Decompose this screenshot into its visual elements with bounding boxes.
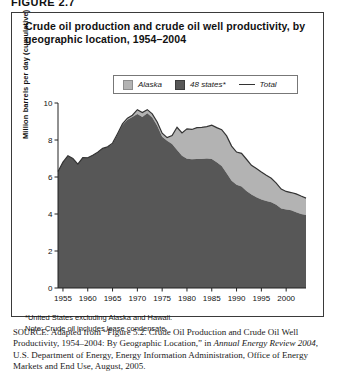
x-tick-label: 1955 — [54, 294, 72, 303]
legend-swatch-48-states-icon — [175, 80, 185, 90]
x-tick-label: 1975 — [153, 294, 171, 303]
y-tick-label: 0 — [48, 284, 53, 293]
legend-line-total-icon — [239, 84, 255, 85]
figure-box: Crude oil production and crude oil well … — [11, 12, 324, 317]
footnote-asterisk: *United States excluding Alaska and Hawa… — [25, 313, 325, 324]
x-tick-label: 1990 — [228, 294, 246, 303]
source-caption: SOURCE: — [13, 327, 49, 337]
y-tick-label: 6 — [48, 173, 53, 182]
legend-label-total: Total — [260, 80, 277, 89]
x-tick-label: 1965 — [104, 294, 122, 303]
y-tick-label: 2 — [48, 247, 53, 256]
x-tick-label: 1970 — [128, 294, 146, 303]
y-tick-label: 8 — [48, 136, 53, 145]
legend-label-48-states: 48 states* — [190, 80, 226, 89]
area-chart-svg: 0246810195519601965197019751980198519901… — [25, 99, 310, 314]
x-tick-label: 1985 — [203, 294, 221, 303]
x-tick-label: 1995 — [252, 294, 270, 303]
figure-label: FIGURE 2.7 — [11, 0, 75, 8]
y-tick-label: 10 — [44, 99, 53, 108]
legend-item-48-states: 48 states* — [175, 80, 226, 90]
legend-label-alaska: Alaska — [138, 80, 162, 89]
source-italic-1: Annual Energy Review 2004 — [213, 338, 315, 348]
source-block: SOURCE: Adapted from “Figure 5.2. Crude … — [13, 327, 319, 373]
chart-legend: Alaska 48 states* Total — [113, 75, 298, 94]
legend-swatch-alaska-icon — [123, 80, 133, 90]
x-tick-label: 1980 — [178, 294, 196, 303]
legend-item-total: Total — [239, 80, 277, 89]
y-tick-label: 4 — [48, 210, 53, 219]
plot-area: Million barrels per day (cumulative) 024… — [25, 99, 310, 314]
x-tick-label: 2000 — [277, 294, 295, 303]
chart-title: Crude oil production and crude oil well … — [25, 20, 310, 46]
x-tick-label: 1960 — [79, 294, 97, 303]
legend-item-alaska: Alaska — [123, 80, 162, 90]
